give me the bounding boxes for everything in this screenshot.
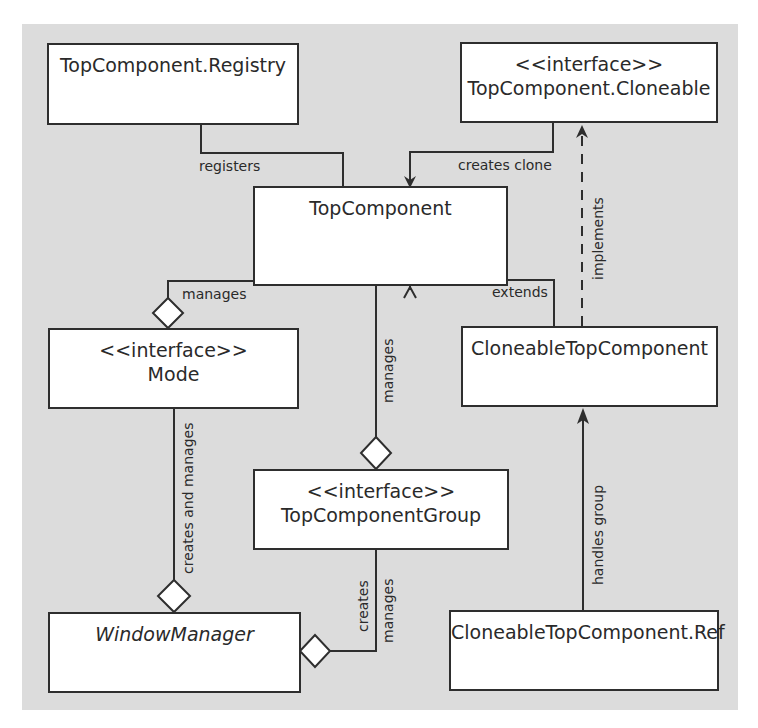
label-group-manages: manages — [380, 339, 396, 403]
class-name: CloneableTopComponent — [463, 336, 716, 360]
class-name: TopComponent.Registry — [49, 53, 297, 77]
label-registers: registers — [199, 158, 260, 174]
class-name: TopComponent.Cloneable — [462, 76, 716, 100]
class-name: TopComponent — [255, 196, 506, 220]
class-name: Mode — [50, 362, 297, 386]
class-name: TopComponentGroup — [255, 503, 507, 527]
aggregation-diamond-wm-right — [300, 635, 330, 667]
stereotype: <<interface>> — [50, 338, 297, 362]
aggregation-diamond-group — [361, 437, 391, 469]
stereotype: <<interface>> — [462, 52, 716, 76]
class-topcomponent: TopComponent — [253, 186, 508, 286]
class-window-manager: WindowManager — [48, 612, 301, 693]
label-creates-clone: creates clone — [458, 157, 552, 173]
label-creates: creates — [355, 580, 371, 632]
label-handles-group: handles group — [590, 485, 606, 585]
class-cloneable-topcomponent: CloneableTopComponent — [461, 326, 718, 407]
stereotype: <<interface>> — [255, 479, 507, 503]
label-wm-manages: manages — [380, 579, 396, 643]
class-cloneable-topcomponent-ref: CloneableTopComponent.Ref — [449, 610, 719, 691]
interface-mode: <<interface>> Mode — [48, 328, 299, 409]
class-name: CloneableTopComponent.Ref — [451, 620, 717, 644]
edge-registers — [201, 124, 343, 188]
label-extends: extends — [492, 284, 548, 300]
class-topcomponent-registry: TopComponent.Registry — [47, 43, 299, 125]
aggregation-diamond-wm — [158, 580, 190, 612]
class-name: WindowManager — [50, 622, 299, 646]
interface-topcomponent-group: <<interface>> TopComponentGroup — [253, 469, 509, 550]
label-creates-and-manages: creates and manages — [180, 423, 196, 574]
interface-topcomponent-cloneable: <<interface>> TopComponent.Cloneable — [460, 42, 718, 123]
label-mode-manages: manages — [182, 286, 246, 302]
aggregation-diamond-mode — [153, 298, 183, 328]
label-implements: implements — [590, 197, 606, 280]
